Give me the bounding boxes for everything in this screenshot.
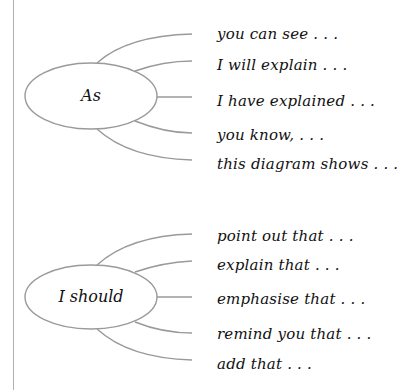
branch-line (135, 261, 192, 272)
branch-text: explain that . . . (217, 256, 340, 274)
hub-label-i-should: I should (25, 287, 157, 307)
branch-text: point out that . . . (217, 227, 354, 245)
branch-line (97, 129, 192, 160)
branch-text: I will explain . . . (217, 56, 347, 74)
branch-line (97, 234, 192, 265)
branch-text: add that . . . (217, 355, 312, 373)
branch-text: emphasise that . . . (217, 290, 365, 308)
hub-label-as: As (25, 86, 157, 106)
branch-line (135, 61, 192, 71)
branch-text: you know, . . . (217, 126, 324, 144)
branch-text: you can see . . . (217, 25, 338, 43)
branch-line (97, 329, 192, 360)
branch-text: this diagram shows . . . (217, 155, 398, 173)
branch-text: remind you that . . . (217, 325, 372, 343)
branch-line (135, 322, 192, 333)
branch-text: I have explained . . . (217, 92, 375, 110)
branch-line (135, 121, 192, 133)
branch-line (97, 34, 192, 63)
